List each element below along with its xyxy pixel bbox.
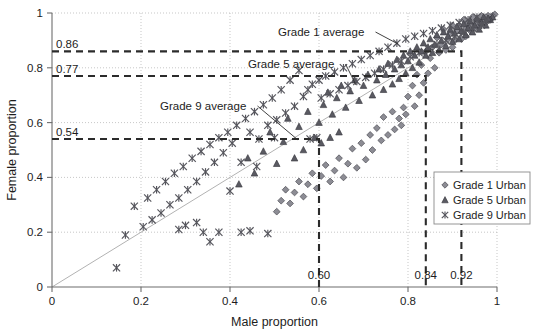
y-tick-label: 0.8 — [27, 62, 43, 74]
marker-diamond — [409, 82, 416, 89]
marker-diamond — [378, 137, 385, 144]
marker-diamond — [300, 193, 307, 200]
y-tick-label: 0.6 — [27, 117, 43, 129]
y-tick-label: 0.4 — [27, 171, 44, 183]
marker-triangle — [356, 97, 363, 103]
grade-5-x-value-label: 0.84 — [415, 269, 438, 281]
marker-asterisk-x — [157, 209, 164, 217]
marker-asterisk-x — [253, 163, 260, 171]
marker-diamond — [416, 92, 423, 99]
marker-asterisk-x — [182, 222, 189, 230]
grade-5-average-label: Grade 5 average — [248, 58, 334, 70]
legend-label: Grade 5 Urban — [453, 194, 526, 206]
grade-1-leader-line — [376, 32, 399, 44]
marker-diamond — [400, 104, 407, 111]
marker-triangle — [389, 81, 396, 87]
marker-triangle — [300, 146, 307, 152]
y-axis-title: Female proportion — [5, 99, 19, 200]
marker-asterisk-x — [193, 178, 200, 186]
marker-diamond — [391, 126, 398, 133]
marker-triangle — [267, 129, 274, 135]
marker-triangle — [369, 92, 376, 98]
data-points — [113, 11, 498, 272]
marker-asterisk-x — [202, 168, 209, 176]
grade-5-leader-line — [346, 64, 357, 85]
marker-diamond — [389, 108, 396, 115]
marker-asterisk-x — [171, 170, 178, 178]
marker-triangle — [291, 155, 298, 161]
marker-asterisk-x — [349, 60, 356, 68]
marker-asterisk-x — [175, 226, 182, 234]
marker-triangle — [244, 155, 251, 161]
marker-diamond — [373, 125, 380, 132]
marker-diamond — [273, 208, 280, 215]
marker-asterisk-x — [220, 149, 227, 157]
x-axis-title: Male proportion — [231, 315, 318, 329]
x-tick-label: 1 — [494, 295, 500, 307]
marker-triangle — [360, 82, 367, 88]
marker-asterisk-x — [420, 30, 427, 38]
marker-diamond — [345, 160, 352, 167]
marker-diamond — [296, 178, 303, 185]
marker-asterisk-x — [189, 154, 196, 162]
marker-asterisk-x — [384, 43, 391, 51]
marker-asterisk-x — [162, 178, 169, 186]
legend-label: Grade 1 Urban — [453, 179, 526, 191]
plot-canvas: 00.20.40.60.8100.20.40.60.81 Male propor… — [0, 0, 557, 333]
marker-asterisk-x — [149, 216, 156, 224]
marker-triangle — [374, 77, 381, 83]
grade-9-y-value-label: 0.54 — [56, 126, 79, 138]
marker-asterisk-x — [291, 102, 298, 110]
marker-asterisk-x — [315, 76, 322, 84]
marker-diamond — [385, 132, 392, 139]
grade-1-x-value-label: 0.92 — [450, 269, 472, 281]
grade-5-y-value-label: 0.77 — [56, 63, 78, 75]
marker-diamond — [309, 170, 316, 177]
marker-asterisk-x — [304, 86, 311, 94]
marker-asterisk-x — [197, 148, 204, 156]
marker-triangle — [427, 35, 434, 41]
marker-diamond — [304, 181, 311, 188]
marker-triangle — [320, 101, 327, 107]
y-tick-label: 1 — [37, 7, 43, 19]
marker-diamond — [331, 167, 338, 174]
marker-asterisk-x — [367, 52, 374, 60]
marker-asterisk-x — [264, 230, 271, 238]
marker-diamond — [278, 197, 285, 204]
marker-asterisk-x — [246, 128, 253, 136]
marker-asterisk-x — [113, 264, 120, 272]
marker-triangle — [305, 108, 312, 114]
marker-diamond — [287, 200, 294, 207]
grade-1-y-value-label: 0.86 — [56, 38, 78, 50]
grade-1-average-label: Grade 1 average — [278, 26, 364, 38]
marker-triangle — [327, 134, 334, 140]
marker-asterisk-x — [224, 128, 231, 136]
marker-diamond — [291, 189, 298, 196]
marker-triangle — [420, 40, 427, 46]
marker-asterisk-x — [193, 219, 200, 227]
marker-diamond — [349, 145, 356, 152]
x-tick-label: 0 — [49, 295, 55, 307]
marker-asterisk-x — [215, 134, 222, 142]
marker-triangle — [273, 160, 280, 166]
marker-asterisk-x — [344, 82, 351, 90]
marker-diamond — [282, 186, 289, 193]
marker-asterisk-x — [175, 194, 182, 202]
scatter-chart: 00.20.40.60.8100.20.40.60.81 Male propor… — [0, 0, 557, 333]
marker-asterisk-x — [300, 93, 307, 101]
y-tick-label: 0 — [37, 281, 43, 293]
marker-asterisk-x — [260, 101, 267, 109]
marker-asterisk-x — [358, 56, 365, 64]
legend: Grade 1 UrbanGrade 5 UrbanGrade 9 Urban — [434, 172, 530, 224]
marker-asterisk-x — [233, 122, 240, 130]
marker-diamond — [380, 114, 387, 121]
marker-asterisk-x — [131, 202, 138, 210]
marker-triangle — [380, 86, 387, 92]
marker-triangle — [333, 94, 340, 100]
marker-asterisk-x — [184, 186, 191, 194]
x-tick-label: 0.4 — [222, 295, 239, 307]
marker-asterisk-x — [246, 227, 253, 235]
marker-asterisk-x — [226, 187, 233, 195]
marker-asterisk-x — [429, 27, 436, 35]
marker-diamond — [396, 115, 403, 122]
